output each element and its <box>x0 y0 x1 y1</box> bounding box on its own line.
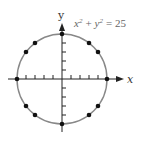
y-axis-label: y <box>57 9 65 22</box>
y-axis-arrow-icon <box>59 23 65 31</box>
lattice-point <box>60 122 65 127</box>
lattice-point <box>60 32 65 37</box>
lattice-point <box>33 41 38 46</box>
lattice-point <box>33 113 38 118</box>
diagram-group <box>8 23 124 132</box>
lattice-point <box>87 41 92 46</box>
equation-label: x2+y2= 25 <box>73 17 126 29</box>
lattice-point <box>87 113 92 118</box>
lattice-point <box>15 77 20 82</box>
x-axis-label: x <box>127 73 134 86</box>
lattice-point <box>24 50 29 55</box>
lattice-point <box>105 77 110 82</box>
lattice-point <box>96 50 101 55</box>
circle-diagram: x y x2+y2= 25 <box>0 0 142 147</box>
x-axis-arrow-icon <box>116 76 124 82</box>
lattice-point <box>24 104 29 109</box>
lattice-point <box>96 104 101 109</box>
